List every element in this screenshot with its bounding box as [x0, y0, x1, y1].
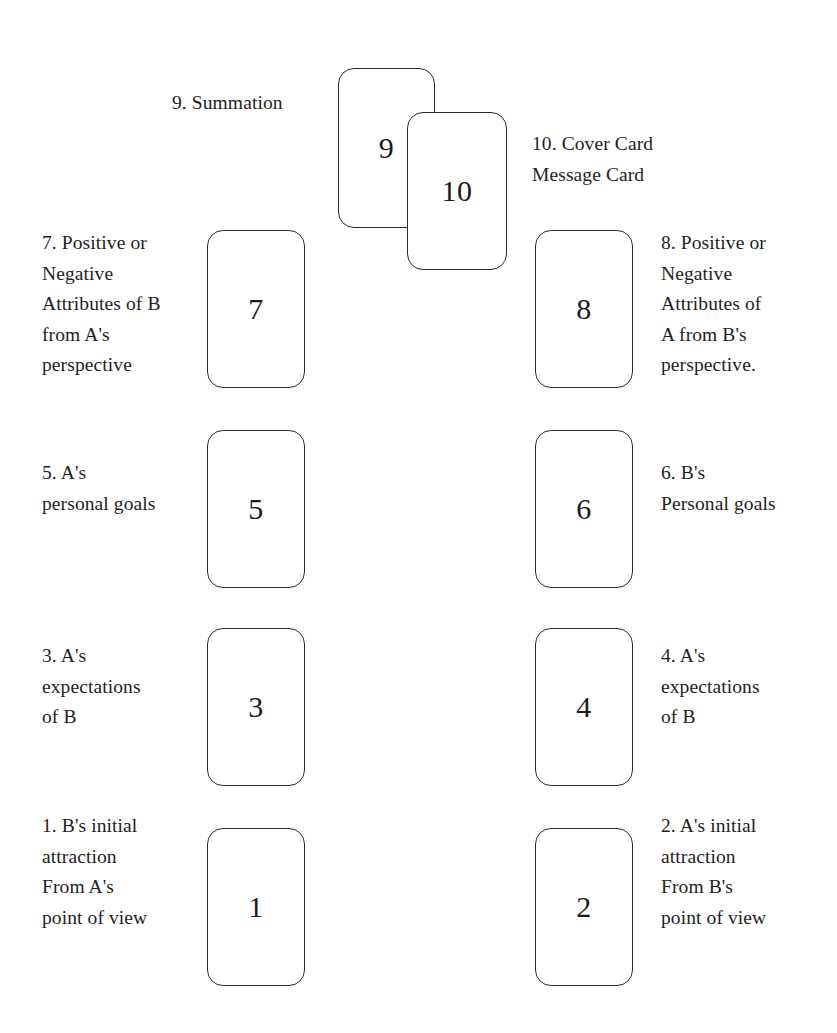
label-position-9: 9. Summation — [172, 88, 342, 119]
card-2[interactable]: 2 — [535, 828, 633, 986]
card-5[interactable]: 5 — [207, 430, 305, 588]
card-1[interactable]: 1 — [207, 828, 305, 986]
card-7[interactable]: 7 — [207, 230, 305, 388]
label-position-8: 8. Positive or Negative Attributes of A … — [661, 228, 831, 381]
card-10[interactable]: 10 — [407, 112, 507, 270]
card-10-number: 10 — [442, 176, 473, 206]
label-position-2: 2. A's initial attraction From B's point… — [661, 811, 831, 933]
tarot-spread-diagram: 9 10 9. Summation 10. Cover Card Message… — [0, 0, 837, 1033]
label-position-10: 10. Cover Card Message Card — [532, 129, 722, 190]
label-position-7: 7. Positive or Negative Attributes of B … — [42, 228, 202, 381]
card-1-number: 1 — [248, 892, 264, 922]
card-3[interactable]: 3 — [207, 628, 305, 786]
label-position-6: 6. B's Personal goals — [661, 458, 831, 519]
card-5-number: 5 — [248, 494, 264, 524]
label-position-1: 1. B's initial attraction From A's point… — [42, 811, 207, 933]
card-4[interactable]: 4 — [535, 628, 633, 786]
label-position-4: 4. A's expectations of B — [661, 641, 831, 733]
card-9-number: 9 — [379, 133, 395, 163]
card-8[interactable]: 8 — [535, 230, 633, 388]
label-position-5: 5. A's personal goals — [42, 458, 207, 519]
card-6-number: 6 — [576, 494, 592, 524]
card-8-number: 8 — [576, 294, 592, 324]
card-2-number: 2 — [576, 892, 592, 922]
card-6[interactable]: 6 — [535, 430, 633, 588]
label-position-3: 3. A's expectations of B — [42, 641, 202, 733]
card-3-number: 3 — [248, 692, 264, 722]
card-7-number: 7 — [248, 294, 264, 324]
card-4-number: 4 — [576, 692, 592, 722]
